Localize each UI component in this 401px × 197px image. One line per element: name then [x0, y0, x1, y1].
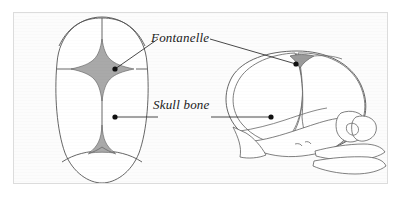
figure-root: .bone { fill:#ffffff; stroke:#555555; st…: [0, 0, 401, 197]
marker-dot-skull-bone-superior: [112, 114, 117, 119]
label-skull-bone: Skull bone: [153, 97, 210, 113]
superior-view-group: [56, 17, 148, 183]
zygomatic-bone-lateral: [352, 116, 377, 141]
label-fontanelle: Fontanelle: [151, 30, 209, 46]
marker-dot-fontanelle-lateral: [293, 61, 298, 66]
marker-dot-fontanelle-superior: [112, 66, 117, 71]
illustration-plate: .bone { fill:#ffffff; stroke:#555555; st…: [13, 12, 388, 184]
marker-dot-skull-bone-lateral: [268, 114, 273, 119]
mandible-lateral: [313, 157, 386, 174]
lateral-view-group: [226, 51, 386, 174]
